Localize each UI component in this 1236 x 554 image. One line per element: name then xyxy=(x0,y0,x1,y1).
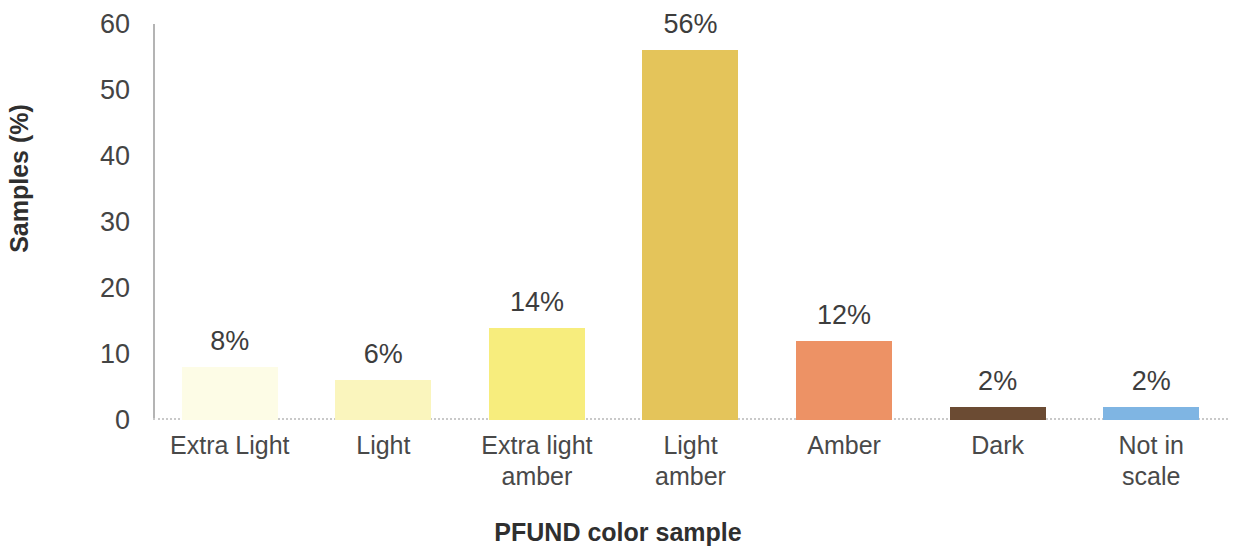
bar-value-label: 8% xyxy=(210,328,249,355)
bar-value-label: 2% xyxy=(978,368,1017,395)
x-axis-tick-label-line: Amber xyxy=(767,430,921,461)
x-axis-tick-label: Lightamber xyxy=(614,430,768,491)
x-axis-tick-label-line: Dark xyxy=(921,430,1075,461)
x-axis-tick-label: Extra Light xyxy=(153,430,307,461)
x-axis-tick-label-line: Extra Light xyxy=(153,430,307,461)
x-axis-tick-label-line: Light xyxy=(307,430,461,461)
bar-slot: 6% xyxy=(307,24,461,420)
x-axis-tick-label: Not inscale xyxy=(1074,430,1228,491)
y-axis-tick-label: 10 xyxy=(100,341,130,368)
bars-layer: 8%6%14%56%12%2%2% xyxy=(153,24,1228,420)
bar-slot: 8% xyxy=(153,24,307,420)
x-axis-tick-label-line: scale xyxy=(1074,461,1228,492)
x-axis-tick-label-line: Light xyxy=(614,430,768,461)
x-axis-title: PFUND color sample xyxy=(0,518,1236,547)
bar-value-label: 56% xyxy=(663,11,717,38)
bar-value-label: 2% xyxy=(1132,368,1171,395)
x-axis-tick-labels: Extra LightLightExtra lightamberLightamb… xyxy=(153,430,1228,510)
bar[interactable] xyxy=(796,341,892,420)
y-axis-tick-label: 60 xyxy=(100,11,130,38)
bar-value-label: 6% xyxy=(364,341,403,368)
y-axis-tick-label: 20 xyxy=(100,275,130,302)
bar[interactable] xyxy=(335,380,431,420)
y-axis-tick-label: 50 xyxy=(100,77,130,104)
bar[interactable] xyxy=(489,328,585,420)
y-axis-tick-label: 0 xyxy=(115,407,130,434)
bar-slot: 2% xyxy=(921,24,1075,420)
y-axis-tick-label: 30 xyxy=(100,209,130,236)
bar-slot: 14% xyxy=(460,24,614,420)
x-axis-tick-label: Light xyxy=(307,430,461,461)
x-axis-tick-label: Amber xyxy=(767,430,921,461)
bar-value-label: 14% xyxy=(510,289,564,316)
bar[interactable] xyxy=(1103,407,1199,420)
bar-slot: 2% xyxy=(1074,24,1228,420)
bar[interactable] xyxy=(182,367,278,420)
bar-slot: 12% xyxy=(767,24,921,420)
x-axis-tick-label: Dark xyxy=(921,430,1075,461)
x-axis-tick-label: Extra lightamber xyxy=(460,430,614,491)
x-axis-tick-label-line: Extra light xyxy=(460,430,614,461)
bar-chart: Samples (%) 6050403020100 8%6%14%56%12%2… xyxy=(0,0,1236,554)
y-axis-tick-labels: 6050403020100 xyxy=(44,0,140,440)
bar-value-label: 12% xyxy=(817,302,871,329)
bar[interactable] xyxy=(950,407,1046,420)
y-axis-tick-label: 40 xyxy=(100,143,130,170)
x-axis-tick-label-line: Not in xyxy=(1074,430,1228,461)
bar-slot: 56% xyxy=(614,24,768,420)
plot-area: 8%6%14%56%12%2%2% xyxy=(153,24,1228,420)
x-axis-tick-label-line: amber xyxy=(460,461,614,492)
y-axis-title: Samples (%) xyxy=(5,64,34,294)
bar[interactable] xyxy=(642,50,738,420)
x-axis-tick-label-line: amber xyxy=(614,461,768,492)
